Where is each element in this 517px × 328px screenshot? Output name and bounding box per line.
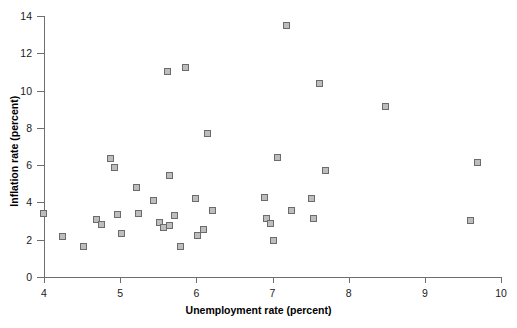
x-axis-tick <box>349 277 350 283</box>
y-axis-tick <box>37 240 44 241</box>
data-point-marker <box>308 195 315 202</box>
data-point-marker <box>209 207 216 214</box>
x-axis-tick <box>196 277 197 283</box>
x-axis-tick-label: 8 <box>334 288 364 299</box>
data-point-marker <box>288 207 295 214</box>
data-point-marker <box>283 22 290 29</box>
data-point-marker <box>474 159 481 166</box>
data-point-marker <box>166 172 173 179</box>
data-point-marker <box>40 210 47 217</box>
y-axis-tick-label: 2 <box>6 235 32 246</box>
y-axis-title: Inflation rate (percent) <box>9 81 20 221</box>
data-point-marker <box>261 194 268 201</box>
x-axis-tick <box>501 277 502 283</box>
data-point-marker <box>267 220 274 227</box>
data-point-marker <box>182 64 189 71</box>
y-axis-tick-label: 14 <box>6 11 32 22</box>
data-point-marker <box>59 233 66 240</box>
data-point-marker <box>274 154 281 161</box>
x-axis-tick-label: 9 <box>410 288 440 299</box>
data-point-marker <box>111 164 118 171</box>
data-point-marker <box>114 211 121 218</box>
data-point-marker <box>270 237 277 244</box>
scatter-plot-figure: 02468101214 45678910 Unemployment rate (… <box>0 0 517 328</box>
x-axis-tick-label: 5 <box>105 288 135 299</box>
x-axis-tick-label: 6 <box>181 288 211 299</box>
data-point-marker <box>467 217 474 224</box>
data-point-marker <box>166 222 173 229</box>
data-point-marker <box>133 184 140 191</box>
x-axis-tick-label: 10 <box>486 288 516 299</box>
data-point-marker <box>382 103 389 110</box>
data-point-marker <box>204 130 211 137</box>
y-axis-tick <box>37 128 44 129</box>
data-point-marker <box>200 226 207 233</box>
x-axis-tick-label: 4 <box>29 288 59 299</box>
x-axis-tick <box>273 277 274 283</box>
x-axis-tick-label: 7 <box>258 288 288 299</box>
y-axis-tick <box>37 53 44 54</box>
data-point-marker <box>98 221 105 228</box>
data-point-marker <box>171 212 178 219</box>
x-axis-tick <box>425 277 426 283</box>
data-point-marker <box>310 215 317 222</box>
data-point-marker <box>150 197 157 204</box>
y-axis-tick <box>37 277 44 278</box>
y-axis-tick-label: 12 <box>6 48 32 59</box>
data-point-marker <box>80 243 87 250</box>
data-point-marker <box>322 167 329 174</box>
y-axis-tick-label: 0 <box>6 272 32 283</box>
x-axis-tick <box>44 277 45 283</box>
y-axis-tick <box>37 165 44 166</box>
data-point-marker <box>192 195 199 202</box>
y-axis-tick <box>37 16 44 17</box>
data-point-marker <box>164 68 171 75</box>
data-point-marker <box>177 243 184 250</box>
data-point-marker <box>135 210 142 217</box>
y-axis-tick <box>37 202 44 203</box>
data-point-marker <box>316 80 323 87</box>
x-axis-title: Unemployment rate (percent) <box>0 305 517 316</box>
data-point-marker <box>107 155 114 162</box>
y-axis-tick <box>37 91 44 92</box>
x-axis-tick <box>120 277 121 283</box>
data-point-marker <box>118 230 125 237</box>
